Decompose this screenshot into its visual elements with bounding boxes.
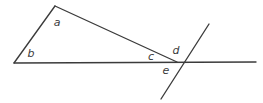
angle-label-c: c (148, 50, 154, 63)
angle-label-e: e (163, 64, 170, 77)
triangle-hypotenuse (55, 6, 177, 62)
geometry-canvas: a b c d e (0, 0, 263, 103)
triangle-left-side (14, 6, 55, 63)
geometry-diagram: a b c d e (0, 0, 263, 103)
angle-label-a: a (54, 16, 61, 29)
horizontal-line (14, 62, 256, 63)
angle-label-d: d (173, 44, 181, 57)
angle-label-b: b (28, 47, 35, 60)
transversal-line (161, 24, 209, 99)
